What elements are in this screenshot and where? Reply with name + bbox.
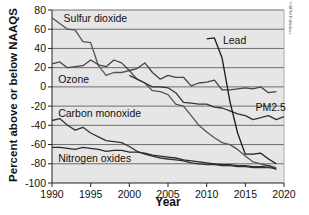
series-label-carbon-monoxide: Carbon monoxide [58, 107, 141, 119]
y-tick-label: 80 [34, 4, 46, 16]
y-tick-label: -80 [31, 157, 46, 169]
x-tick-label: 2010 [195, 188, 219, 200]
y-tick-label: 20 [34, 61, 46, 73]
x-axis-label: Year [148, 195, 188, 209]
y-tick-label: -40 [31, 119, 46, 131]
series-label-pm2-5: PM2.5 [255, 101, 286, 113]
y-tick-label: -100 [25, 177, 46, 189]
line-chart: 806040200-20-40-60-80-100 19901995200020… [0, 0, 309, 215]
y-axis-ticks: 806040200-20-40-60-80-100 [25, 4, 52, 189]
y-tick-label: 40 [34, 42, 46, 54]
series-label-lead: Lead [223, 34, 247, 46]
y-tick-label: 0 [40, 80, 46, 92]
y-tick-label: -20 [31, 100, 46, 112]
series-label-sulfur-dioxide: Sulfur dioxide [64, 12, 128, 24]
series-label-nitrogen-oxides: Nitrogen oxides [58, 152, 131, 164]
x-tick-label: 1990 [40, 188, 64, 200]
x-tick-label: 2015 [234, 188, 258, 200]
y-tick-label: 60 [34, 23, 46, 35]
x-tick-label: 1995 [79, 188, 103, 200]
series-label-ozone: Ozone [58, 73, 89, 85]
x-tick-label: 2020 [272, 188, 296, 200]
copyright-watermark: © BPW Publishers [287, 0, 293, 38]
y-tick-label: -60 [31, 138, 46, 150]
y-axis-label: Percent above or below NAAQS [7, 5, 21, 185]
x-tick-label: 2000 [118, 188, 142, 200]
